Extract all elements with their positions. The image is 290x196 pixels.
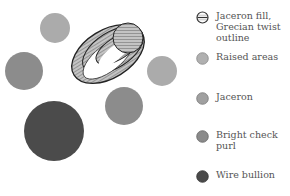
legend-item-jaceron-fill: Jaceron fill, Grecian twist outline [196,10,290,43]
jaceron-ellipse-motif [61,12,154,95]
wire-bullion-circle [24,101,84,161]
legend-label: Bright check purl [216,129,290,151]
bright-check-purl-circle-middle [105,87,143,125]
legend-label: Raised areas [216,51,290,62]
hatched-circle-icon [196,11,209,24]
legend-item-wire-bullion: Wire bullion [196,169,290,183]
raised-area-circle-right [147,56,177,86]
bright-check-purl-circle-left [5,52,43,90]
embroidery-diagram [0,0,190,196]
light-gray-circle-icon [196,52,209,65]
legend-label: Wire bullion [216,169,290,180]
dark-gray-circle-icon [196,170,209,183]
legend-label: Jaceron fill, Grecian twist outline [216,10,290,43]
legend-item-jaceron: Jaceron [196,91,290,105]
medium-gray-circle-icon [196,130,209,143]
raised-area-circle-top [40,13,70,43]
legend-item-bright-check-purl: Bright check purl [196,129,290,151]
legend-item-raised-areas: Raised areas [196,51,290,65]
legend-label: Jaceron [216,91,290,102]
gray-circle-icon [196,92,209,105]
